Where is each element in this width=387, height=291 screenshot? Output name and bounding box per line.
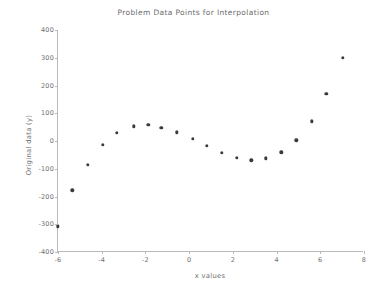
y-tick-label: -400 (38, 248, 54, 256)
x-tick-mark (277, 251, 278, 254)
x-tick-label: 4 (274, 256, 278, 264)
x-tick-label: 8 (362, 256, 366, 264)
x-tick-mark (102, 251, 103, 254)
x-tick-label: 0 (187, 256, 191, 264)
x-tick-mark (233, 251, 234, 254)
y-tick-mark (55, 197, 58, 198)
x-tick-mark (364, 251, 365, 254)
y-tick-label: -300 (38, 220, 54, 228)
chart-figure: Problem Data Points for Interpolation 40… (0, 0, 387, 291)
chart-title: Problem Data Points for Interpolation (0, 8, 387, 17)
y-tick-mark (55, 113, 58, 114)
x-tick-mark (145, 251, 146, 254)
data-point (205, 144, 208, 147)
y-tick-label: 100 (41, 109, 54, 117)
x-tick-label: -2 (142, 256, 149, 264)
data-point (86, 163, 89, 166)
data-point (132, 125, 135, 128)
data-point (235, 156, 238, 159)
y-tick-mark (55, 141, 58, 142)
data-point (101, 143, 104, 146)
data-point (220, 151, 223, 154)
data-point (115, 131, 118, 134)
y-tick-label: 300 (41, 54, 54, 62)
y-tick-label: -200 (38, 193, 54, 201)
y-axis-label: Original data (y) (25, 85, 33, 205)
y-tick-label: -100 (38, 165, 54, 173)
data-point (310, 120, 313, 123)
data-point (325, 92, 328, 95)
x-tick-label: 2 (231, 256, 235, 264)
plot-area: 4003002001000-100-200-300-400-6-4-202468 (57, 30, 363, 252)
y-tick-label: 0 (50, 137, 54, 145)
data-point (175, 131, 178, 134)
x-tick-label: -6 (55, 256, 62, 264)
x-tick-label: -4 (98, 256, 105, 264)
data-point (71, 188, 74, 191)
data-point (295, 138, 298, 141)
y-tick-mark (55, 58, 58, 59)
scatter-points-layer (58, 30, 364, 252)
x-tick-mark (189, 251, 190, 254)
data-point (250, 158, 253, 161)
data-point (147, 123, 150, 126)
data-point (341, 56, 344, 59)
x-axis-label: x values (57, 272, 363, 280)
y-tick-label: 400 (41, 26, 54, 34)
data-point (159, 126, 162, 129)
x-tick-mark (58, 251, 59, 254)
y-tick-mark (55, 224, 58, 225)
x-tick-label: 6 (318, 256, 322, 264)
y-tick-mark (55, 86, 58, 87)
data-point (279, 151, 282, 154)
x-tick-mark (320, 251, 321, 254)
data-point (191, 137, 194, 140)
data-point (264, 157, 267, 160)
y-tick-label: 200 (41, 82, 54, 90)
y-tick-mark (55, 169, 58, 170)
y-tick-mark (55, 30, 58, 31)
